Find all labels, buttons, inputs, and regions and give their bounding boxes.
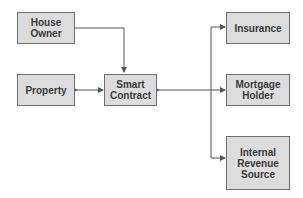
node-smart-contract: Smart Contract bbox=[104, 74, 157, 106]
node-house-owner: House Owner bbox=[17, 12, 75, 44]
edge-houseowner-smartcontract bbox=[75, 28, 124, 72]
node-internal-revenue-source: Internal Revenue Source bbox=[226, 136, 290, 190]
node-mortgage-holder: Mortgage Holder bbox=[226, 74, 290, 106]
node-insurance: Insurance bbox=[226, 12, 290, 44]
node-property: Property bbox=[17, 74, 75, 106]
diagram-canvas: House Owner Property Smart Contract Insu… bbox=[0, 0, 303, 198]
